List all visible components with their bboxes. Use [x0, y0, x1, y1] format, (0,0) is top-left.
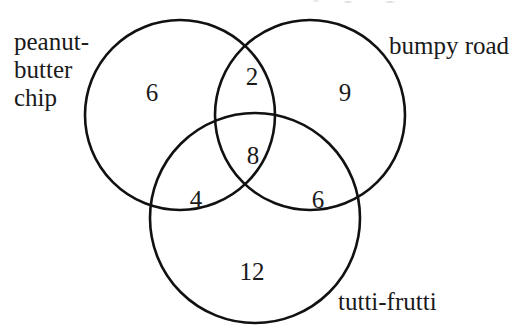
region-count-left-bottom: 4	[190, 187, 203, 212]
set-label-bumpy-road: bumpy road	[389, 32, 509, 60]
region-count-right-bottom: 6	[312, 187, 325, 212]
region-count-right-only: 9	[339, 80, 352, 105]
set-label-tutti-frutti: tutti-frutti	[338, 288, 437, 316]
circle-bumpy-road	[215, 20, 405, 210]
region-count-left-right: 2	[246, 64, 259, 89]
set-label-peanut-butter-chip: peanut- butter chip	[14, 28, 89, 112]
circle-peanut-butter-chip	[85, 20, 275, 210]
region-count-left-only: 6	[146, 80, 159, 105]
region-count-all-three: 8	[247, 143, 260, 168]
region-count-bottom-only: 12	[240, 259, 265, 284]
venn-diagram: peanut- butter chip bumpy road tutti-fru…	[0, 0, 531, 336]
